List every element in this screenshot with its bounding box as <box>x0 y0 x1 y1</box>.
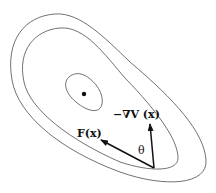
force-label: F(x) <box>77 127 102 140</box>
neg-grad-label: −∇V (x) <box>113 108 160 121</box>
angle-theta-label: θ <box>138 144 145 157</box>
negative-gradient-vector <box>150 124 154 168</box>
equilibrium-dot <box>82 92 86 96</box>
force-vector <box>101 140 154 168</box>
lyapunov-diagram: −∇V (x) F(x) θ <box>0 0 216 193</box>
middle-contour <box>22 28 178 169</box>
